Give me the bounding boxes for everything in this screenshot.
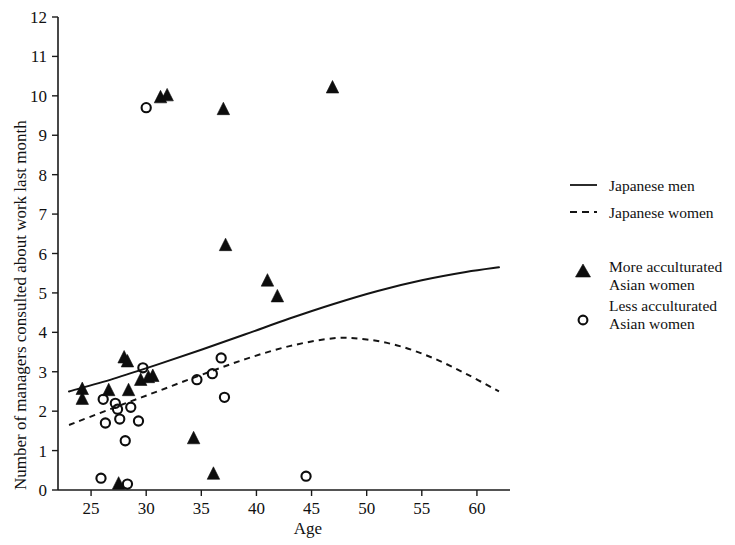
x-tick-group [91, 490, 477, 496]
data-point-triangle [122, 383, 135, 395]
y-tick-label: 12 [30, 8, 47, 27]
y-tick-label: 11 [31, 47, 47, 66]
data-point-circle [115, 414, 124, 423]
y-axis-title: Number of managers consulted about work … [11, 120, 30, 490]
y-tick-label: 1 [39, 442, 48, 461]
y-tick-label: 9 [39, 126, 48, 145]
data-point-triangle [217, 102, 230, 114]
x-tick-label: 40 [248, 499, 265, 518]
x-tick-label: 35 [193, 499, 210, 518]
data-point-circle [220, 393, 229, 402]
data-point-circle [123, 479, 132, 488]
y-tick-label: 7 [39, 205, 48, 224]
data-point-circle [121, 436, 130, 445]
data-point-triangle [207, 467, 220, 479]
y-tick-label: 0 [39, 481, 48, 500]
x-tick-label: 50 [358, 499, 375, 518]
data-point-circle [99, 395, 108, 404]
x-axis-title: Age [294, 519, 322, 538]
trend-curves-layer [69, 267, 499, 425]
data-point-circle [113, 405, 122, 414]
data-point-circle [301, 472, 310, 481]
data-point-circle [134, 416, 143, 425]
data-point-circle [96, 474, 105, 483]
x-tick-label: 60 [468, 499, 485, 518]
legend-item-more-acculturated-line1: More acculturated [609, 258, 722, 275]
trend-curve-solid [69, 267, 499, 391]
legend-item-more-acculturated-line2: Asian women [609, 276, 695, 293]
y-tick-group [52, 17, 58, 490]
x-tick-label: 45 [303, 499, 320, 518]
legend-item-less-acculturated-line2: Asian women [609, 315, 695, 332]
data-point-circle [217, 353, 226, 362]
data-point-triangle [261, 274, 274, 286]
x-tick-label: 25 [83, 499, 100, 518]
y-tick-label: 6 [39, 245, 48, 264]
data-point-circle [101, 418, 110, 427]
y-tick-label: 3 [39, 363, 48, 382]
filled-triangle-icon [576, 264, 591, 277]
x-tick-label: 30 [138, 499, 155, 518]
y-tick-label-group: 0123456789101112 [30, 8, 48, 500]
data-point-circle [208, 369, 217, 378]
x-axis: 2530354045505560 Age [58, 490, 510, 538]
legend: Japanese men Japanese women More accultu… [570, 177, 722, 332]
y-axis: 0123456789101112 Number of managers cons… [11, 8, 58, 500]
open-circle-icon [579, 316, 588, 325]
data-point-circle [126, 403, 135, 412]
x-tick-label-group: 2530354045505560 [83, 499, 486, 518]
data-point-triangle [219, 238, 232, 250]
data-point-triangle [326, 81, 339, 93]
legend-item-less-acculturated-line1: Less acculturated [609, 297, 717, 314]
y-tick-label: 4 [39, 323, 48, 342]
y-tick-label: 8 [39, 166, 48, 185]
scatter-plot-figure: 0123456789101112 Number of managers cons… [0, 0, 735, 545]
data-points-layer [76, 81, 339, 490]
x-tick-label: 55 [413, 499, 430, 518]
data-point-triangle [187, 431, 200, 443]
chart-canvas: 0123456789101112 Number of managers cons… [0, 0, 735, 545]
y-tick-label: 2 [39, 402, 48, 421]
data-point-circle [142, 103, 151, 112]
data-point-triangle [271, 289, 284, 301]
legend-item-japanese-women: Japanese women [609, 204, 714, 221]
y-tick-label: 5 [39, 284, 48, 303]
legend-item-japanese-men: Japanese men [609, 177, 695, 194]
y-tick-label: 10 [30, 87, 47, 106]
